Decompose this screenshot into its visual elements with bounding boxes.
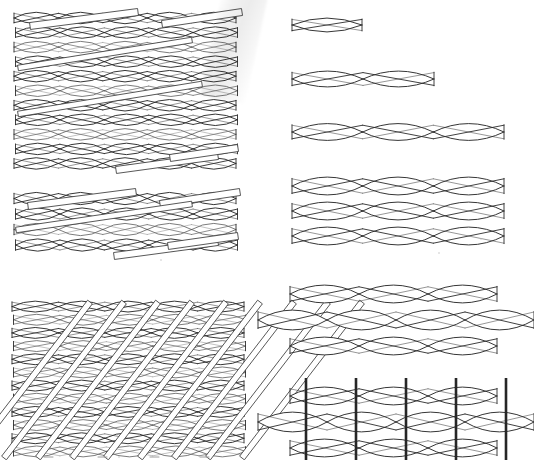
three-repeat-twisted-yarn	[290, 117, 510, 147]
figure-root	[0, 0, 534, 460]
single-twisted-yarn-unit	[290, 10, 366, 40]
twisted-yarn-row	[16, 114, 238, 126]
three-layer-stack-with-z-binders	[258, 374, 530, 460]
twisted-yarn-row	[290, 337, 497, 355]
twisted-yarn-row	[14, 70, 236, 82]
twisted-yarn-row	[292, 202, 504, 220]
twisted-yarn-row	[292, 227, 504, 245]
large-woven-fabric-patch	[12, 10, 238, 172]
twisted-yarn-row	[292, 71, 434, 87]
twisted-yarn-row	[292, 124, 504, 141]
scan-speck	[118, 456, 120, 458]
two-repeat-twisted-yarn	[290, 64, 440, 94]
twisted-yarn-row	[258, 310, 534, 330]
twisted-yarn-row	[290, 439, 497, 457]
scan-speck	[480, 238, 482, 240]
small-woven-fabric-patch	[12, 190, 238, 258]
scan-speck	[438, 252, 440, 254]
dense-braided-fabric-patch	[10, 300, 246, 460]
offset-three-layer-yarn-stack	[258, 280, 530, 358]
twisted-yarn-row	[258, 412, 534, 432]
twisted-yarn-row	[290, 387, 497, 405]
twisted-yarn-row	[16, 27, 238, 39]
three-layer-yarn-stack	[290, 172, 510, 250]
twisted-yarn-row	[290, 285, 497, 303]
twisted-yarn-row	[292, 18, 362, 32]
scan-speck	[70, 455, 72, 457]
scan-speck	[172, 456, 174, 458]
twisted-yarn-row	[14, 129, 236, 141]
twisted-yarn-row	[12, 301, 244, 312]
twisted-yarn-row	[292, 177, 504, 195]
scan-speck	[160, 259, 162, 261]
